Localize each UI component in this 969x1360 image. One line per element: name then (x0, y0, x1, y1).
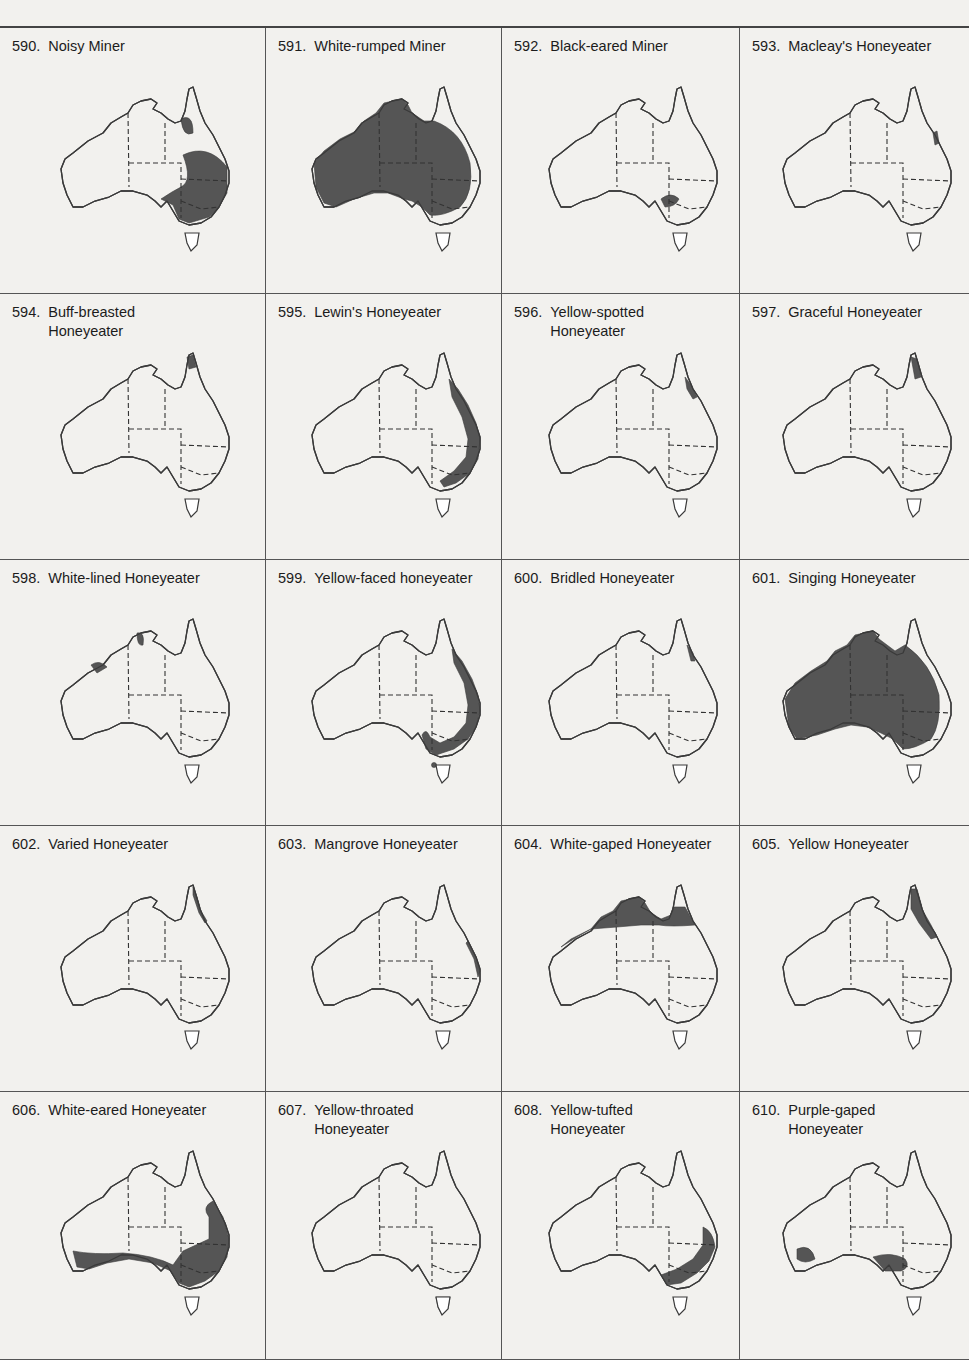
species-label: 604. White-gaped Honeyeater (514, 835, 711, 854)
species-map-cell-597: 597. Graceful Honeyeater (740, 294, 969, 560)
australia-map-icon (521, 83, 721, 253)
species-name: Yellow-spotted Honeyeater (550, 303, 644, 341)
species-label: 596. Yellow-spotted Honeyeater (514, 303, 644, 341)
species-number: 592. (514, 37, 542, 56)
species-label: 599. Yellow-faced honeyeater (278, 569, 473, 588)
species-name: Black-eared Miner (550, 37, 668, 56)
species-name: Yellow-throated Honeyeater (314, 1101, 413, 1139)
species-name: Yellow-faced honeyeater (314, 569, 472, 588)
species-map-cell-598: 598. White-lined Honeyeater (0, 560, 266, 826)
australia-map-icon (284, 83, 484, 253)
australia-map-icon (755, 615, 955, 785)
australia-map-icon (755, 83, 955, 253)
australia-map-icon (521, 1147, 721, 1317)
species-label: 608. Yellow-tufted Honeyeater (514, 1101, 633, 1139)
species-map-cell-599: 599. Yellow-faced honeyeater (266, 560, 502, 826)
species-name: White-lined Honeyeater (48, 569, 200, 588)
species-number: 606. (12, 1101, 40, 1120)
species-number: 603. (278, 835, 306, 854)
species-name: Lewin's Honeyeater (314, 303, 441, 322)
species-label: 593. Macleay's Honeyeater (752, 37, 931, 56)
species-map-cell-600: 600. Bridled Honeyeater (502, 560, 740, 826)
species-number: 608. (514, 1101, 542, 1139)
species-label: 601. Singing Honeyeater (752, 569, 916, 588)
australia-map-icon (33, 881, 233, 1051)
species-name: Noisy Miner (48, 37, 125, 56)
species-name: White-rumped Miner (314, 37, 445, 56)
australia-map-icon (33, 615, 233, 785)
species-map-cell-592: 592. Black-eared Miner (502, 28, 740, 294)
species-name: Yellow-tufted Honeyeater (550, 1101, 633, 1139)
species-map-cell-601: 601. Singing Honeyeater (740, 560, 969, 826)
species-number: 605. (752, 835, 780, 854)
species-label: 606. White-eared Honeyeater (12, 1101, 206, 1120)
species-number: 597. (752, 303, 780, 322)
australia-map-icon (284, 349, 484, 519)
species-map-cell-610: 610. Purple-gaped Honeyeater (740, 1092, 969, 1360)
species-number: 602. (12, 835, 40, 854)
species-number: 599. (278, 569, 306, 588)
australia-map-icon (755, 1147, 955, 1317)
australia-map-icon (284, 615, 484, 785)
species-number: 590. (12, 37, 40, 56)
species-name: Varied Honeyeater (48, 835, 168, 854)
species-label: 603. Mangrove Honeyeater (278, 835, 458, 854)
species-label: 595. Lewin's Honeyeater (278, 303, 441, 322)
species-number: 594. (12, 303, 40, 341)
species-name: White-eared Honeyeater (48, 1101, 206, 1120)
species-name: Singing Honeyeater (788, 569, 915, 588)
species-name: White-gaped Honeyeater (550, 835, 711, 854)
species-map-cell-607: 607. Yellow-throated Honeyeater (266, 1092, 502, 1360)
species-label: 591. White-rumped Miner (278, 37, 446, 56)
australia-map-icon (521, 349, 721, 519)
species-number: 601. (752, 569, 780, 588)
species-map-cell-595: 595. Lewin's Honeyeater (266, 294, 502, 560)
species-name: Purple-gaped Honeyeater (788, 1101, 875, 1139)
species-map-cell-594: 594. Buff-breasted Honeyeater (0, 294, 266, 560)
species-label: 600. Bridled Honeyeater (514, 569, 674, 588)
species-name: Bridled Honeyeater (550, 569, 674, 588)
species-map-cell-602: 602. Varied Honeyeater (0, 826, 266, 1092)
species-number: 593. (752, 37, 780, 56)
species-map-cell-604: 604. White-gaped Honeyeater (502, 826, 740, 1092)
species-label: 592. Black-eared Miner (514, 37, 668, 56)
species-label: 602. Varied Honeyeater (12, 835, 168, 854)
species-label: 605. Yellow Honeyeater (752, 835, 909, 854)
species-label: 607. Yellow-throated Honeyeater (278, 1101, 414, 1139)
species-label: 594. Buff-breasted Honeyeater (12, 303, 135, 341)
distribution-map-grid: 590. Noisy Miner 591. White-rumped Miner (0, 26, 969, 1360)
species-number: 600. (514, 569, 542, 588)
species-map-cell-603: 603. Mangrove Honeyeater (266, 826, 502, 1092)
species-map-cell-591: 591. White-rumped Miner (266, 28, 502, 294)
australia-map-icon (755, 881, 955, 1051)
australia-map-icon (521, 881, 721, 1051)
species-number: 607. (278, 1101, 306, 1139)
australia-map-icon (521, 615, 721, 785)
species-label: 590. Noisy Miner (12, 37, 125, 56)
species-map-cell-590: 590. Noisy Miner (0, 28, 266, 294)
species-label: 597. Graceful Honeyeater (752, 303, 922, 322)
species-name: Graceful Honeyeater (788, 303, 922, 322)
australia-map-icon (284, 1147, 484, 1317)
species-number: 604. (514, 835, 542, 854)
species-number: 591. (278, 37, 306, 56)
species-label: 598. White-lined Honeyeater (12, 569, 200, 588)
species-name: Yellow Honeyeater (788, 835, 908, 854)
species-map-cell-606: 606. White-eared Honeyeater (0, 1092, 266, 1360)
species-map-cell-596: 596. Yellow-spotted Honeyeater (502, 294, 740, 560)
species-name: Mangrove Honeyeater (314, 835, 457, 854)
species-map-cell-605: 605. Yellow Honeyeater (740, 826, 969, 1092)
australia-map-icon (284, 881, 484, 1051)
australia-map-icon (755, 349, 955, 519)
species-map-cell-608: 608. Yellow-tufted Honeyeater (502, 1092, 740, 1360)
species-name: Macleay's Honeyeater (788, 37, 931, 56)
species-number: 610. (752, 1101, 780, 1139)
australia-map-icon (33, 349, 233, 519)
species-number: 596. (514, 303, 542, 341)
species-map-cell-593: 593. Macleay's Honeyeater (740, 28, 969, 294)
species-number: 598. (12, 569, 40, 588)
species-number: 595. (278, 303, 306, 322)
species-name: Buff-breasted Honeyeater (48, 303, 135, 341)
australia-map-icon (33, 1147, 233, 1317)
australia-map-icon (33, 83, 233, 253)
